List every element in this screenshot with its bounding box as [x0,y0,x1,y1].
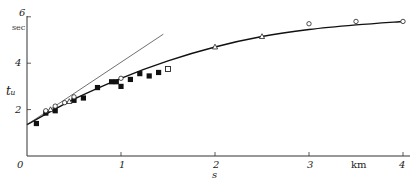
x-axis-label: s [212,169,217,180]
chart: 0 2 4 6 sec tᵤ 1 2 3 4 km s [0,0,417,180]
filled-square-marker [53,108,58,113]
x-tick-label-4: 4 [398,159,405,170]
fitted-curve [27,21,403,124]
filled-square-marker [114,79,119,84]
filled-square-marker [34,121,39,126]
filled-square-marker [156,70,161,75]
filled-square-marker [128,77,133,82]
open-square-marker [166,67,171,72]
y-unit-label: sec [12,23,26,32]
tick-marks [27,17,403,156]
origin-label: 0 [17,159,24,170]
open-circle-marker [401,19,405,23]
open-circle-marker [62,100,66,104]
filled-square-marker [118,84,123,89]
y-tick-label-2: 2 [14,104,21,115]
filled-square-marker [147,73,152,78]
open-circle-marker [44,109,48,113]
x-tick-label-1: 1 [119,159,125,170]
y-tick-label-6: 6 [19,7,26,18]
filled-square-marker [137,71,142,76]
open-circle-marker [72,95,76,99]
open-circle-marker [307,22,311,26]
y-axis-label: tᵤ [6,84,16,98]
plot-lines [27,21,403,124]
x-tick-label-3: 3 [307,159,313,170]
data-points [34,19,405,126]
filled-square-marker [95,85,100,90]
y-tick-label-4: 4 [14,57,21,68]
open-circle-marker [354,19,358,23]
axes [27,16,410,156]
filled-square-marker [81,95,86,100]
filled-square-marker [109,79,114,84]
open-circle-marker [53,104,57,108]
open-circle-marker [119,76,123,80]
x-unit-label: km [351,159,367,170]
